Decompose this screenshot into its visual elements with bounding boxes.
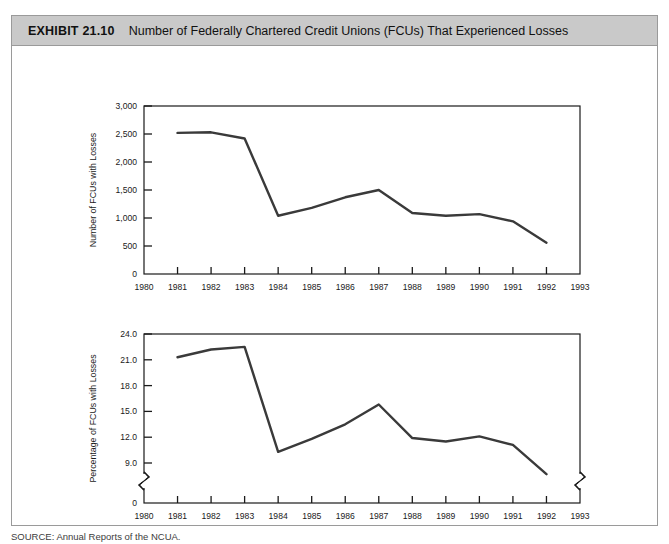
y-axis-title: Number of FCUs with Losses — [88, 132, 98, 247]
data-line-series — [178, 347, 547, 474]
y-tick-label: 2,000 — [115, 157, 137, 167]
x-tick-label: 1990 — [470, 282, 489, 292]
plot-frame — [144, 334, 580, 503]
y-tick-label: 1,000 — [115, 213, 137, 223]
x-tick-label: 1986 — [336, 282, 355, 292]
x-tick-label: 1989 — [436, 511, 455, 521]
x-tick-label: 1984 — [269, 511, 288, 521]
x-tick-label: 1993 — [570, 282, 589, 292]
x-tick-label: 1985 — [302, 511, 321, 521]
x-tick-label: 1987 — [369, 511, 388, 521]
x-tick-label: 1993 — [570, 511, 589, 521]
x-tick-label: 1983 — [235, 511, 254, 521]
exhibit-body: 05001,0001,5002,0002,5003,00019801981198… — [12, 46, 657, 525]
x-tick-label: 1984 — [269, 282, 288, 292]
y-tick-label: 2,500 — [115, 129, 137, 139]
y-tick-label: 21.0 — [120, 355, 137, 365]
x-tick-label: 1982 — [202, 511, 221, 521]
y-tick-label: 9.0 — [125, 458, 137, 468]
x-tick-label: 1983 — [235, 282, 254, 292]
x-tick-label: 1989 — [436, 282, 455, 292]
x-tick-label: 1987 — [369, 282, 388, 292]
x-tick-label: 1992 — [537, 511, 556, 521]
y-tick-label: 12.0 — [120, 432, 137, 442]
y-tick-label: 0 — [132, 498, 137, 508]
y-axis-title: Percentage of FCUs with Losses — [88, 354, 98, 483]
y-tick-label: 24.0 — [120, 329, 137, 339]
x-tick-label: 1980 — [134, 282, 153, 292]
x-tick-label: 1990 — [470, 511, 489, 521]
x-tick-label: 1981 — [168, 511, 187, 521]
y-tick-label: 500 — [123, 241, 138, 251]
exhibit-number: EXHIBIT 21.10 — [28, 24, 115, 38]
chart-panel-2: 09.012.015.018.021.024.01980198119821983… — [88, 329, 590, 525]
y-tick-label: 0 — [132, 269, 137, 279]
x-tick-label: 1980 — [134, 511, 153, 521]
x-tick-label: 1986 — [336, 511, 355, 521]
chart-panel-1: 05001,0001,5002,0002,5003,00019801981198… — [88, 101, 590, 292]
source-note: SOURCE: Annual Reports of the NCUA. — [11, 531, 181, 542]
x-tick-label: 1992 — [537, 282, 556, 292]
exhibit-title: Number of Federally Chartered Credit Uni… — [129, 24, 569, 38]
y-tick-label: 18.0 — [120, 381, 137, 391]
exhibit-panel: EXHIBIT 21.10 Number of Federally Charte… — [11, 15, 658, 526]
y-tick-label: 1,500 — [115, 185, 137, 195]
x-tick-label: 1981 — [168, 282, 187, 292]
data-line-series — [178, 132, 547, 242]
x-tick-label: 1988 — [403, 511, 422, 521]
y-tick-label: 15.0 — [120, 406, 137, 416]
x-tick-label: 1991 — [503, 282, 522, 292]
exhibit-header: EXHIBIT 21.10 Number of Federally Charte… — [12, 16, 657, 46]
y-tick-label: 3,000 — [115, 101, 137, 111]
x-tick-label: 1988 — [403, 282, 422, 292]
x-tick-label: 1982 — [202, 282, 221, 292]
x-tick-label: 1985 — [302, 282, 321, 292]
charts-figure: 05001,0001,5002,0002,5003,00019801981198… — [12, 46, 657, 525]
x-tick-label: 1991 — [503, 511, 522, 521]
